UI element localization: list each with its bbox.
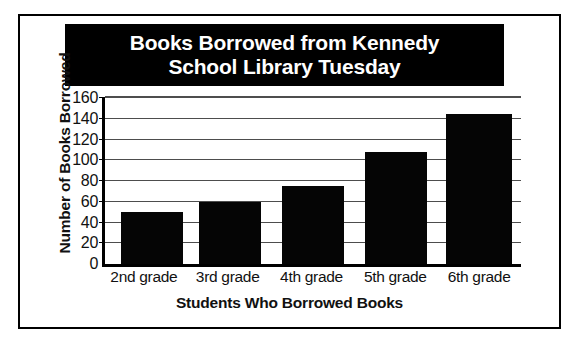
chart-title-line-2: School Library Tuesday <box>168 55 400 78</box>
y-axis-tick-label: 0 <box>50 256 98 272</box>
y-axis-tick-label: 20 <box>50 235 98 251</box>
chart-title-line-1: Books Borrowed from Kennedy <box>130 31 440 54</box>
x-axis-tick-label: 2nd grade <box>102 268 186 286</box>
y-axis-tick-label: 160 <box>50 90 98 106</box>
bar-slot <box>188 98 271 264</box>
x-axis-tick-label: 3rd grade <box>186 268 270 286</box>
bar <box>121 212 183 264</box>
bar-series <box>105 98 521 264</box>
y-axis-tick-label: 40 <box>50 215 98 231</box>
chart-title-banner: Books Borrowed from Kennedy School Libra… <box>65 24 504 86</box>
y-axis-tick-label: 140 <box>50 111 98 127</box>
y-axis-tick-labels: 160140120100806040200 <box>50 98 98 264</box>
bar-slot <box>105 98 188 264</box>
plot-area <box>102 98 521 267</box>
chart-title: Books Borrowed from Kennedy School Libra… <box>124 31 446 78</box>
y-axis-tick-label: 100 <box>50 152 98 168</box>
x-axis-title: Students Who Borrowed Books <box>20 294 559 312</box>
bar <box>365 152 427 264</box>
bar <box>199 202 261 264</box>
x-axis-tick-labels: 2nd grade3rd grade4th grade5th grade6th … <box>102 268 521 286</box>
bar <box>282 186 344 264</box>
y-axis-tick-label: 120 <box>50 132 98 148</box>
bar <box>446 114 512 264</box>
chart-figure: Books Borrowed from Kennedy School Libra… <box>18 14 561 329</box>
bar-slot <box>271 98 354 264</box>
bar-slot <box>438 98 521 264</box>
y-axis-tick-label: 80 <box>50 173 98 189</box>
bar-slot <box>355 98 438 264</box>
y-axis-tick-label: 60 <box>50 194 98 210</box>
x-axis-tick-label: 5th grade <box>353 268 437 286</box>
x-axis-tick-label: 6th grade <box>437 268 521 286</box>
x-axis-tick-label: 4th grade <box>270 268 354 286</box>
